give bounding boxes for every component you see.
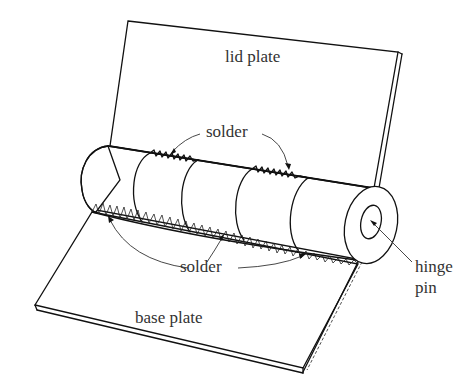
solder-top-label: solder	[206, 123, 248, 141]
lid-plate-label: lid plate	[225, 48, 280, 66]
hinge-diagram: lid plate solder solder hinge pin base p…	[0, 0, 476, 391]
solder-bottom-label: solder	[180, 258, 222, 276]
hinge-pin-label-line1: hinge	[415, 258, 453, 276]
hinge-pin-label-line2: pin	[415, 279, 437, 297]
base-plate-label: base plate	[135, 309, 203, 327]
